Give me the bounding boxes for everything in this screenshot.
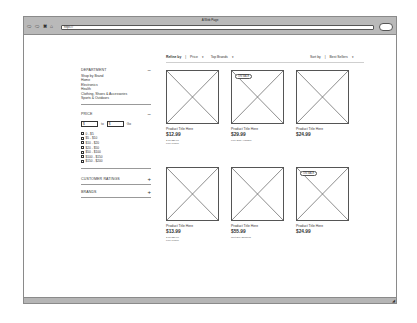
checkbox[interactable]	[81, 146, 84, 149]
sort-toolbar: Sort by | Best Sellers ▾	[310, 55, 360, 59]
sale-badge: ON SALE	[235, 74, 252, 79]
product-image-placeholder[interactable]	[166, 167, 219, 221]
price-filter-label: Price	[190, 55, 198, 59]
department-facet: DEPARTMENT − Shop by Brand Home Electron…	[81, 66, 151, 105]
product-card[interactable]: ON SALE Product Title Here $24.99	[296, 167, 349, 234]
product-card[interactable]: ON SALE Product Title Here $29.99 Free S…	[231, 70, 284, 142]
product-fulfillment: Free Ship Available	[231, 139, 284, 142]
go-button[interactable]	[379, 23, 393, 31]
product-price: $24.99	[296, 132, 349, 137]
product-title[interactable]: Product Title Here	[231, 224, 284, 228]
url-input[interactable]: https://	[61, 25, 374, 30]
product-title[interactable]: Product Title Here	[166, 224, 219, 228]
customer-ratings-title: CUSTOMER RATINGS	[81, 177, 120, 181]
price-header[interactable]: PRICE −	[81, 110, 151, 118]
customer-ratings-header[interactable]: CUSTOMER RATINGS +	[81, 174, 151, 184]
title-bar: A Web Page ⬭ ⬭ ✖ ⌂ https://	[24, 17, 396, 35]
checkbox[interactable]	[81, 132, 84, 135]
back-icon[interactable]: ⬭	[27, 24, 31, 29]
sort-dropdown[interactable]: Best Sellers ▾	[330, 55, 357, 59]
product-fulfillment: Free Pickup	[166, 239, 219, 242]
checkbox[interactable]	[81, 160, 84, 163]
min-price-input[interactable]: $	[81, 121, 98, 127]
chevron-down-icon: ▾	[232, 55, 234, 59]
product-card[interactable]: Product Title Here $13.99 2 for $20.00 F…	[166, 167, 219, 242]
price-title: PRICE	[81, 112, 92, 116]
sort-value: Best Sellers	[330, 55, 348, 59]
checkbox[interactable]	[81, 151, 84, 154]
sort-label: Sort by	[310, 55, 321, 59]
price-range-label: 0 - $5	[86, 132, 94, 136]
toolbar-divider	[166, 62, 364, 63]
expand-icon[interactable]: +	[147, 174, 151, 184]
customer-ratings-facet: CUSTOMER RATINGS +	[81, 174, 151, 185]
product-title[interactable]: Product Title Here	[231, 127, 284, 131]
refine-separator: |	[185, 55, 186, 59]
product-price: $29.99	[231, 132, 284, 137]
top-brands-dropdown[interactable]: Top Brands ▾	[211, 55, 237, 59]
collapse-icon[interactable]: −	[147, 110, 151, 118]
price-range-option[interactable]: $150 - $200	[81, 159, 151, 164]
product-price: $13.99	[166, 229, 219, 234]
chevron-down-icon: ▾	[352, 55, 354, 59]
product-card[interactable]: Product Title Here $24.99	[296, 70, 349, 137]
refine-toolbar: Refine by | Price ▾ Top Brands ▾	[166, 55, 240, 59]
product-card[interactable]: Product Title Here $55.99 Next Day Shipp…	[231, 167, 284, 239]
price-range-label: $10 - $20	[86, 141, 99, 145]
status-bar: ◢	[24, 297, 396, 303]
brands-facet: BRANDS +	[81, 187, 151, 198]
forward-icon[interactable]: ⬭	[35, 24, 39, 29]
product-image-placeholder[interactable]	[231, 167, 284, 221]
price-range-label: $20 - $50	[86, 146, 99, 150]
checkbox[interactable]	[81, 155, 84, 158]
refine-label: Refine by	[166, 55, 181, 59]
brands-header[interactable]: BRANDS +	[81, 187, 151, 197]
product-title[interactable]: Product Title Here	[296, 127, 349, 131]
price-range-label: $5 - $10	[86, 136, 98, 140]
product-fulfillment: Free Pickup	[166, 142, 219, 145]
product-image-placeholder[interactable]	[296, 70, 349, 124]
browser-window: A Web Page ⬭ ⬭ ✖ ⌂ https:// ◢	[23, 16, 397, 304]
price-range-label: $100 - $150	[86, 155, 103, 159]
sale-badge: ON SALE	[300, 171, 317, 176]
product-title[interactable]: Product Title Here	[166, 127, 219, 131]
window-title: A Web Page	[24, 18, 396, 22]
collapse-icon[interactable]: −	[147, 66, 151, 74]
filter-sidebar: DEPARTMENT − Shop by Brand Home Electron…	[81, 66, 151, 198]
price-range-label: $150 - $200	[86, 159, 103, 163]
product-card[interactable]: Product Title Here $12.99 2 for $20.00 F…	[166, 70, 219, 145]
expand-icon[interactable]: +	[147, 187, 151, 197]
home-icon[interactable]: ⌂	[50, 24, 53, 29]
max-price-input[interactable]: $	[107, 121, 124, 127]
department-title: DEPARTMENT	[81, 68, 106, 72]
product-image-placeholder[interactable]	[166, 70, 219, 124]
department-link[interactable]: Sports & Outdoors	[81, 96, 151, 100]
resize-grip-icon[interactable]: ◢	[391, 298, 396, 303]
go-price-button[interactable]: Go	[127, 122, 131, 126]
chevron-down-icon: ▾	[202, 55, 204, 59]
product-fulfillment: Next Day Shipping	[231, 236, 284, 239]
product-image-placeholder[interactable]: ON SALE	[231, 70, 284, 124]
brands-title: BRANDS	[81, 190, 97, 194]
department-header[interactable]: DEPARTMENT −	[81, 66, 151, 74]
to-label: to	[101, 122, 104, 126]
product-price: $55.99	[231, 229, 284, 234]
price-filter-dropdown[interactable]: Price ▾	[190, 55, 207, 59]
sort-separator: |	[325, 55, 326, 59]
checkbox[interactable]	[81, 137, 84, 140]
product-price: $24.99	[296, 229, 349, 234]
checkbox[interactable]	[81, 141, 84, 144]
price-range-label: $50 - $100	[86, 150, 101, 154]
stop-icon[interactable]: ✖	[43, 24, 47, 29]
product-price: $12.99	[166, 132, 219, 137]
top-brands-label: Top Brands	[211, 55, 228, 59]
product-image-placeholder[interactable]: ON SALE	[296, 167, 349, 221]
price-facet: PRICE − $ to $ Go 0 - $5 $5 - $10 $10 - …	[81, 110, 151, 168]
product-title[interactable]: Product Title Here	[296, 224, 349, 228]
